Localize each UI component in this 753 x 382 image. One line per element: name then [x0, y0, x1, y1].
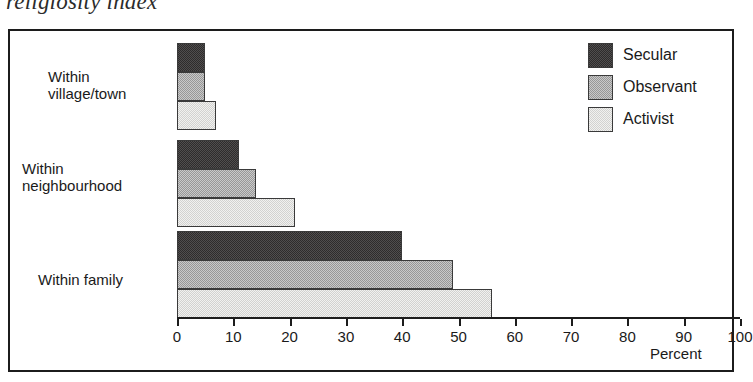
x-tick-label: 40 — [394, 328, 411, 345]
x-tick-mark — [627, 319, 629, 326]
x-tick-mark — [233, 319, 235, 326]
legend-item-activist: Activist — [588, 107, 728, 139]
bar-observant — [177, 72, 205, 101]
x-tick-label: 10 — [225, 328, 242, 345]
x-tick-mark — [459, 319, 461, 326]
x-tick-label: 30 — [338, 328, 355, 345]
x-tick-label: 20 — [281, 328, 298, 345]
category-label-neighbourhood: Within neighbourhood — [22, 160, 122, 194]
category-label-family: Within family — [38, 271, 123, 288]
x-tick-mark — [290, 319, 292, 326]
bar-secular — [177, 140, 239, 169]
legend-label-activist: Activist — [623, 109, 674, 129]
x-tick-label: 70 — [563, 328, 580, 345]
x-tick-mark — [571, 319, 573, 326]
bar-activist — [177, 101, 216, 130]
x-tick-mark — [684, 319, 686, 326]
x-tick-label: 50 — [450, 328, 467, 345]
x-tick-mark — [515, 319, 517, 326]
legend-swatch-secular-icon — [588, 43, 613, 68]
x-tick-label: 80 — [619, 328, 636, 345]
x-tick-label: 90 — [675, 328, 692, 345]
legend-item-observant: Observant — [588, 75, 728, 107]
x-tick-label: 100 — [727, 328, 752, 345]
bar-observant — [177, 260, 453, 289]
x-axis-title: Percent — [650, 345, 702, 362]
x-tick-label: 0 — [173, 328, 181, 345]
category-label-village-town: Within village/town — [48, 68, 126, 102]
bar-secular — [177, 231, 402, 260]
x-tick-mark — [177, 319, 179, 326]
legend-swatch-observant-icon — [588, 75, 613, 100]
bar-activist — [177, 289, 492, 318]
legend-label-secular: Secular — [623, 45, 677, 65]
legend: Secular Observant Activist — [588, 43, 728, 139]
legend-item-secular: Secular — [588, 43, 728, 75]
x-tick-mark — [740, 319, 742, 326]
bar-activist — [177, 198, 295, 227]
x-tick-label: 60 — [506, 328, 523, 345]
legend-label-observant: Observant — [623, 77, 697, 97]
bar-observant — [177, 169, 256, 198]
legend-swatch-activist-icon — [588, 107, 613, 132]
x-tick-mark — [402, 319, 404, 326]
bar-secular — [177, 43, 205, 72]
x-tick-mark — [346, 319, 348, 326]
